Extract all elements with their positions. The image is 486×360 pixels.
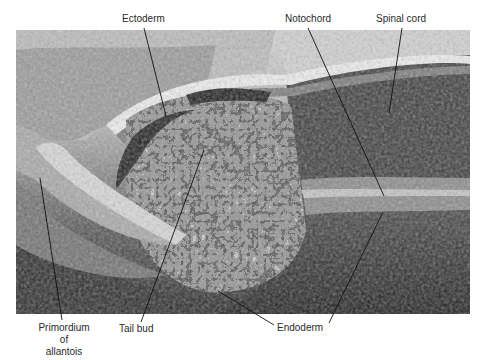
label-primordium-line-3: allantois — [38, 346, 90, 358]
annotated-micrograph-figure: Ectoderm Notochord Spinal cord Primordiu… — [0, 0, 486, 360]
label-tail-bud: Tail bud — [119, 323, 153, 335]
label-spinal-cord: Spinal cord — [376, 13, 426, 25]
label-ectoderm: Ectoderm — [122, 13, 165, 25]
label-primordium-line-1: Primordium — [38, 322, 90, 334]
label-notochord: Notochord — [285, 13, 331, 25]
label-primordium-line-2: of — [38, 334, 90, 346]
sem-micrograph-image — [16, 30, 470, 314]
label-primordium-of-allantois: Primordium of allantois — [38, 322, 90, 358]
label-endoderm: Endoderm — [277, 322, 323, 334]
